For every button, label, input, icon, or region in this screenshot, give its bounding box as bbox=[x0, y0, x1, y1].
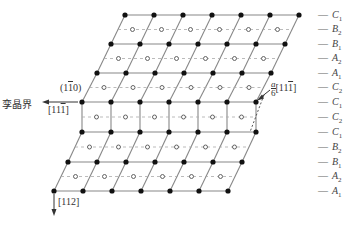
solid-atom bbox=[210, 159, 215, 164]
solid-atom bbox=[122, 12, 127, 17]
open-atom bbox=[182, 115, 186, 119]
open-atom bbox=[131, 86, 135, 90]
layer-label: —B1 bbox=[318, 157, 342, 171]
lattice-atoms bbox=[51, 12, 301, 193]
open-atom bbox=[146, 57, 150, 61]
open-atom bbox=[146, 145, 150, 149]
solid-atom bbox=[268, 70, 273, 75]
solid-atom bbox=[123, 159, 128, 164]
solid-atom bbox=[195, 41, 200, 46]
twin-boundary-label: 孪晶界 bbox=[2, 96, 32, 111]
open-atom bbox=[219, 175, 223, 179]
lattice-grid bbox=[54, 15, 299, 191]
open-atom bbox=[160, 28, 164, 32]
open-atom bbox=[218, 86, 222, 90]
solid-atom bbox=[137, 99, 142, 104]
open-atom bbox=[218, 28, 222, 32]
solid-atom bbox=[137, 41, 142, 46]
solid-atom bbox=[196, 188, 201, 193]
layer-label: —B1 bbox=[318, 39, 342, 53]
solid-atom bbox=[253, 41, 258, 46]
open-atom bbox=[204, 57, 208, 61]
solid-atom bbox=[167, 188, 172, 193]
open-atom bbox=[124, 115, 128, 119]
solid-atom bbox=[80, 188, 85, 193]
solid-atom bbox=[166, 129, 171, 134]
open-atom bbox=[74, 175, 78, 179]
open-atom bbox=[161, 175, 165, 179]
direction-down-label: [112] bbox=[58, 196, 79, 207]
layer-label: —A1 bbox=[318, 68, 342, 82]
open-atom bbox=[189, 28, 193, 32]
arrow-down-icon bbox=[52, 209, 57, 216]
solid-atom bbox=[123, 70, 128, 75]
solid-atom bbox=[181, 159, 186, 164]
open-atom bbox=[153, 115, 157, 119]
open-atom bbox=[189, 86, 193, 90]
solid-atom bbox=[79, 99, 84, 104]
open-atom bbox=[233, 145, 237, 149]
solid-atom bbox=[224, 41, 229, 46]
open-atom bbox=[247, 28, 251, 32]
open-atom bbox=[102, 86, 106, 90]
solid-atom bbox=[79, 129, 84, 134]
open-atom bbox=[95, 115, 99, 119]
layer-label: —B2 bbox=[318, 142, 342, 156]
layer-label: —C2 bbox=[318, 82, 342, 96]
solid-atom bbox=[108, 99, 113, 104]
layer-label: —A2 bbox=[318, 53, 342, 67]
open-atom bbox=[88, 145, 92, 149]
solid-atom bbox=[152, 159, 157, 164]
layer-label: —C1 bbox=[318, 10, 342, 24]
solid-atom bbox=[210, 70, 215, 75]
solid-atom bbox=[195, 129, 200, 134]
open-atom bbox=[175, 57, 179, 61]
layer-label: —B2 bbox=[318, 24, 342, 38]
twin-lattice-diagram: (110) 孪晶界 [111] a 6 [111] [112] —C1—B2—B… bbox=[0, 0, 350, 225]
solid-atom bbox=[166, 41, 171, 46]
open-atom bbox=[103, 175, 107, 179]
open-atom bbox=[204, 145, 208, 149]
layer-label: —A2 bbox=[318, 171, 342, 185]
solid-atom bbox=[109, 188, 114, 193]
layer-label: —C1 bbox=[318, 127, 342, 141]
solid-atom bbox=[296, 12, 301, 17]
solid-atom bbox=[225, 188, 230, 193]
solid-atom bbox=[152, 70, 157, 75]
solid-atom bbox=[94, 159, 99, 164]
solid-atom bbox=[65, 159, 70, 164]
plane-label: (110) bbox=[60, 82, 81, 93]
solid-atom bbox=[180, 12, 185, 17]
solid-atom bbox=[166, 99, 171, 104]
open-atom bbox=[132, 175, 136, 179]
open-atom bbox=[240, 115, 244, 119]
layer-label: —A1 bbox=[318, 186, 342, 200]
open-atom bbox=[131, 28, 135, 32]
solid-atom bbox=[94, 70, 99, 75]
open-atom bbox=[190, 175, 194, 179]
layer-label: —C1 bbox=[318, 97, 342, 111]
solid-atom bbox=[151, 12, 156, 17]
open-atom bbox=[211, 115, 215, 119]
solid-atom bbox=[238, 12, 243, 17]
solid-atom bbox=[239, 159, 244, 164]
solid-atom bbox=[224, 99, 229, 104]
solid-atom bbox=[253, 129, 258, 134]
open-atom bbox=[175, 145, 179, 149]
solid-atom bbox=[209, 12, 214, 17]
open-atom bbox=[247, 86, 251, 90]
solid-atom bbox=[195, 99, 200, 104]
solid-atom bbox=[108, 129, 113, 134]
open-atom bbox=[276, 28, 280, 32]
solid-atom bbox=[51, 188, 56, 193]
open-atom bbox=[233, 57, 237, 61]
solid-atom bbox=[137, 129, 142, 134]
open-atom bbox=[160, 86, 164, 90]
solid-atom bbox=[224, 129, 229, 134]
open-atom bbox=[117, 57, 121, 61]
solid-atom bbox=[239, 70, 244, 75]
solid-atom bbox=[181, 70, 186, 75]
solid-atom bbox=[267, 12, 272, 17]
solid-atom bbox=[138, 188, 143, 193]
partial-dislocation-label: a 6 [111] bbox=[271, 80, 296, 97]
